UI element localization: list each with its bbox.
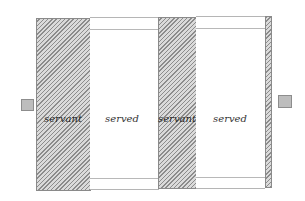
served-bay-1-bottom-line [90,178,159,179]
served-bay-2-top-line [196,28,265,29]
servant-strip [265,16,272,188]
served-bay-2-bottom-line [196,177,265,178]
served-bay-1-label: served [105,113,139,124]
servant-bay-1 [36,18,91,191]
served-bay-1-top-line [90,29,159,30]
served-bay-1 [90,17,159,190]
servant-bay-2-label: servant [158,113,196,124]
served-bay-2-label: served [213,113,247,124]
served-bay-2 [196,16,265,189]
right-end-marker [278,95,292,108]
servant-bay-2 [158,17,197,189]
servant-bay-1-label: servant [44,113,82,124]
servant-served-diagram: servant served servant served [0,0,305,201]
left-end-marker [21,99,34,111]
